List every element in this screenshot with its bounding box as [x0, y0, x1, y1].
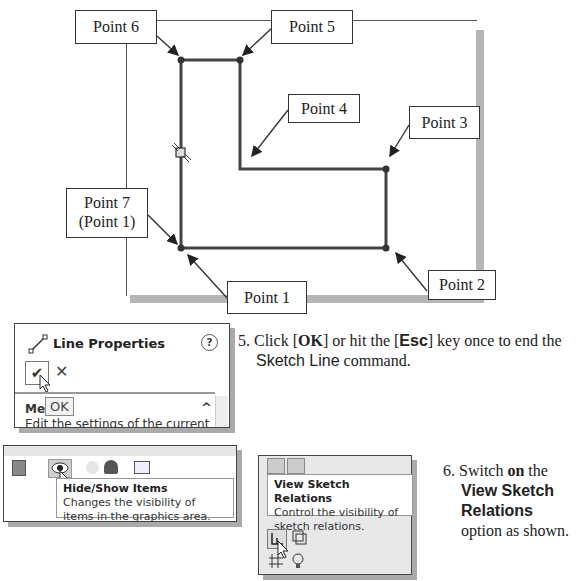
ok-tooltip: OK	[45, 397, 74, 416]
tooltip-title: Hide/Show Items	[63, 482, 167, 495]
tooltip-title: View Sketch Relations	[274, 478, 350, 505]
line-icon	[28, 334, 48, 354]
sketch-geometry	[0, 0, 586, 320]
on-keyword: on	[507, 462, 524, 479]
step-text: Click [	[254, 332, 298, 349]
callout-point-4: Point 4	[288, 94, 360, 123]
callout-point-7-label: Point 7	[71, 193, 143, 212]
step-6: 6. Switch on the View Sketch Relations o…	[443, 461, 583, 541]
view-orientation-icon[interactable]	[12, 460, 26, 476]
step-number: 5.	[238, 332, 250, 349]
lightbulb-icon[interactable]	[291, 552, 305, 570]
callout-point-7: Point 7 (Point 1)	[66, 188, 148, 238]
step-text: command.	[340, 352, 411, 369]
hide-show-tooltip: Hide/Show Items Changes the visibility o…	[56, 478, 234, 518]
panel-title: Line Properties	[53, 336, 165, 351]
sketch-3d-icon[interactable]	[291, 529, 307, 547]
callout-point-2: Point 2	[428, 270, 496, 300]
collapse-icon[interactable]: ^	[201, 400, 212, 415]
view-settings-icon[interactable]	[134, 461, 150, 474]
cancel-button[interactable]: ✕	[55, 362, 68, 381]
esc-key: Esc	[399, 332, 427, 349]
sketch-relations-panel: View Sketch Relations Control the visibi…	[258, 455, 412, 575]
line-properties-panel: Line Properties ? ✔ ✕ Me OK ^ Edit the s…	[14, 323, 230, 428]
ok-key: OK	[298, 332, 323, 349]
apply-scene-icon[interactable]	[104, 460, 118, 474]
callout-point-7-sublabel: (Point 1)	[71, 212, 143, 231]
callout-point-6: Point 6	[75, 10, 157, 44]
toolbar-icon[interactable]	[267, 458, 285, 474]
view-sketch-relations-tooltip: View Sketch Relations Control the visibi…	[267, 474, 413, 516]
step-number: 6.	[443, 462, 455, 479]
tooltip-body: Changes the visibility of items in the g…	[63, 496, 211, 523]
toolbar-strip	[4, 446, 236, 456]
view-toolbar-panel: Hide/Show Items Changes the visibility o…	[3, 445, 237, 522]
step-text: option as shown.	[443, 522, 569, 539]
step-5: 5. Click [OK] or hit the [Esc] key once …	[238, 331, 578, 371]
callout-point-1: Point 1	[227, 281, 307, 314]
callout-point-3: Point 3	[409, 106, 480, 139]
callout-point-5: Point 5	[271, 10, 353, 44]
command-name: Sketch Line	[238, 352, 340, 369]
step-text: Switch	[459, 462, 507, 479]
step-text: the	[524, 462, 548, 479]
edit-appearance-icon[interactable]	[86, 461, 99, 474]
section-description: Edit the settings of the current	[25, 417, 209, 428]
option-name: Relations	[443, 502, 533, 519]
option-name: View Sketch	[443, 482, 554, 499]
mouse-cursor-icon	[277, 540, 291, 560]
scrollbar[interactable]	[215, 396, 228, 428]
help-icon[interactable]: ?	[201, 334, 218, 351]
toolbar-icon[interactable]	[287, 458, 305, 474]
section-label: Me	[25, 402, 45, 416]
mouse-cursor-icon	[39, 374, 53, 394]
divider	[15, 392, 215, 394]
step-text: ] key once to end the	[428, 332, 562, 349]
step-text: ] or hit the [	[323, 332, 399, 349]
